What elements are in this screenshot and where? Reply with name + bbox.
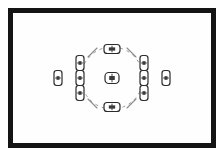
viewfinder-field bbox=[13, 13, 211, 143]
viewfinder-frame bbox=[8, 8, 216, 148]
viewfinder-diagram-root: Camera Viewfinder AF Point Layout bbox=[0, 0, 224, 156]
